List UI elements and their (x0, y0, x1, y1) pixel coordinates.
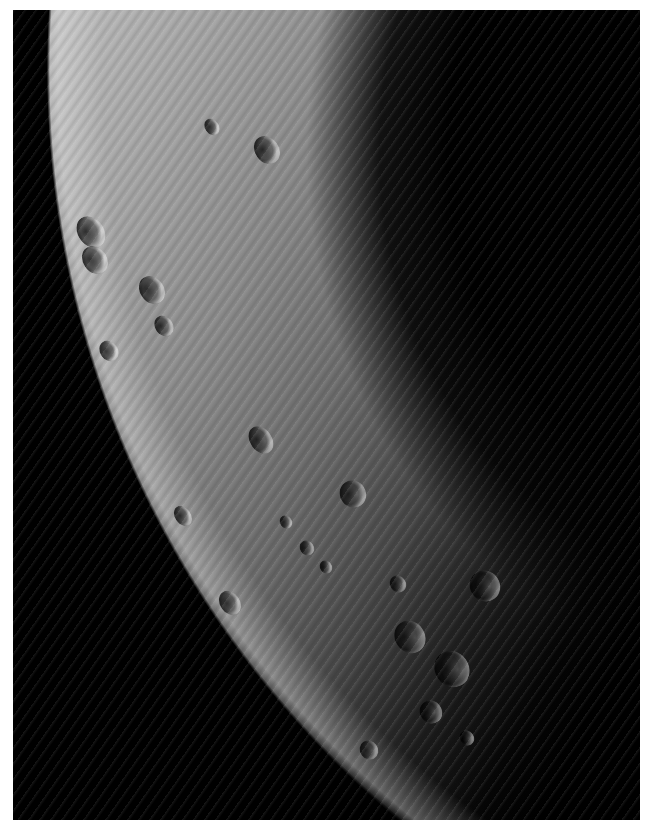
image-subject: Cratered planetary surface near terminat… (0, 0, 1, 1)
photo-frame (13, 10, 640, 820)
planet-surface-photo (13, 10, 640, 820)
surface-texture (13, 10, 640, 820)
